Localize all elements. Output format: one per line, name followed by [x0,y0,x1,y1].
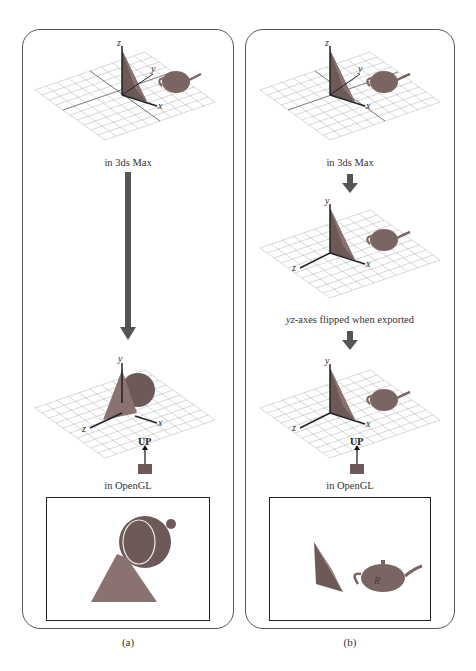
svg-text:UP: UP [350,436,363,447]
svg-text:x: x [365,100,371,111]
caption-b-3dsmax: in 3ds Max [326,157,373,168]
svg-text:z: z [81,423,86,434]
panel-a-label: (a) [122,636,134,648]
caption-a-3dsmax: in 3ds Max [104,157,151,168]
svg-text:UP: UP [138,436,151,447]
caption-a-opengl: in OpenGL [104,480,152,491]
render-view-a [46,497,210,621]
arrow-down-icon [342,331,358,351]
scene-b-flipped: y z x [260,198,440,308]
arrow-down-icon [342,174,358,194]
svg-text:y: y [150,63,156,74]
svg-text:z: z [291,262,296,273]
scene-b-opengl: y z x UP [260,358,440,468]
svg-text:y: y [357,63,363,74]
svg-text:z: z [324,37,329,48]
panel-b-label: (b) [344,636,357,648]
teapot-letter: R [373,575,380,586]
svg-text:x: x [157,100,163,111]
svg-text:y: y [324,355,330,366]
svg-text:y: y [324,195,330,206]
svg-text:x: x [365,258,371,269]
scene-a-opengl: y z x UP [35,358,215,468]
scene-a-3dsmax: z y x [35,40,215,150]
svg-text:x: x [157,417,163,428]
svg-text:y: y [117,353,123,364]
svg-text:z: z [116,37,121,48]
svg-text:x: x [365,418,371,429]
caption-b-opengl: in OpenGL [326,480,374,491]
scene-b-3dsmax: z y x [260,40,440,150]
svg-text:z: z [291,422,296,433]
arrow-down-icon [120,172,136,342]
render-view-b: R [269,497,431,621]
caption-b-flipped: yz-axes flipped when exported [286,314,414,325]
